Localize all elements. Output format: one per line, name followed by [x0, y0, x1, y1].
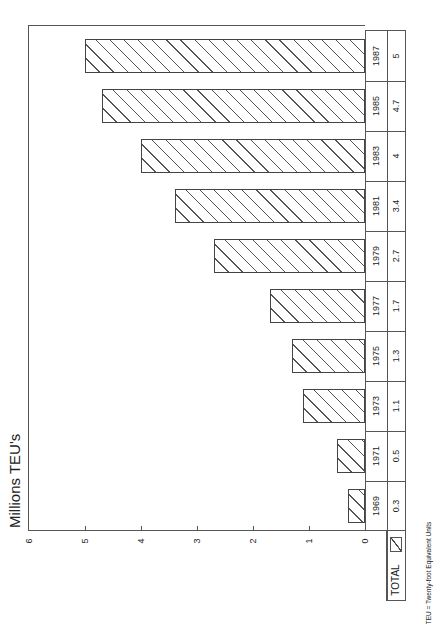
- axis-tick-label: 2: [248, 534, 258, 548]
- table-value-cell: 2.7: [390, 236, 402, 276]
- table-row-divider: [365, 331, 406, 332]
- table-year-cell: 1973: [370, 386, 382, 426]
- table-value-cell: 0.5: [390, 436, 402, 476]
- bar-1975: [292, 339, 365, 373]
- axis-tick: [85, 526, 86, 531]
- table-row-divider: [365, 231, 406, 232]
- bar-1979: [214, 239, 365, 273]
- axis-tick-label: 3: [192, 534, 202, 548]
- bar-1985: [102, 89, 365, 123]
- table-value-cell: 1.1: [390, 386, 402, 426]
- axis-tick-label: 6: [24, 534, 34, 548]
- table-value-cell: 5: [390, 36, 402, 76]
- legend-hatch-swatch-icon: [390, 537, 402, 552]
- axis-tick: [141, 526, 142, 531]
- table-year-cell: 1979: [370, 236, 382, 276]
- table-row-divider: [365, 281, 406, 282]
- table-value-cell: 4: [390, 136, 402, 176]
- table-year-cell: 1987: [370, 36, 382, 76]
- table-row-divider: [365, 431, 406, 432]
- bar-1983: [141, 139, 365, 173]
- bar-1971: [337, 439, 365, 473]
- axis-tick-label: 0: [360, 534, 370, 548]
- axis-tick: [253, 526, 254, 531]
- table-year-cell: 1971: [370, 436, 382, 476]
- table-row-divider: [365, 81, 406, 82]
- bar-1987: [85, 39, 365, 73]
- table-value-cell: 0.3: [390, 486, 402, 526]
- axis-tick: [197, 526, 198, 531]
- table-year-cell: 1983: [370, 136, 382, 176]
- table-row-divider: [365, 131, 406, 132]
- table-value-cell: 3.4: [390, 186, 402, 226]
- table-row-divider: [365, 381, 406, 382]
- table-year-cell: 1969: [370, 486, 382, 526]
- table-year-cell: 1977: [370, 286, 382, 326]
- axis-tick-label: 4: [136, 534, 146, 548]
- bar-1981: [175, 189, 365, 223]
- table-row-divider: [365, 481, 406, 482]
- axis-tick: [309, 526, 310, 531]
- bar-1973: [303, 389, 365, 423]
- table-value-cell: 1.7: [390, 286, 402, 326]
- bar-1969: [348, 489, 365, 523]
- table-year-cell: 1975: [370, 336, 382, 376]
- footnote: TEU = Twenty-foot Equivalent Units: [424, 514, 434, 632]
- table-year-cell: 1985: [370, 86, 382, 126]
- chart-title: Millions TEU's: [6, 438, 24, 528]
- axis-tick-label: 5: [80, 534, 90, 548]
- table-row-divider: [365, 181, 406, 182]
- legend-label: TOTAL: [390, 560, 402, 600]
- data-table-divider: [387, 30, 388, 600]
- table-year-cell: 1981: [370, 186, 382, 226]
- table-value-cell: 4.7: [390, 86, 402, 126]
- bar-1977: [270, 289, 365, 323]
- table-value-cell: 1.3: [390, 336, 402, 376]
- axis-tick-label: 1: [304, 534, 314, 548]
